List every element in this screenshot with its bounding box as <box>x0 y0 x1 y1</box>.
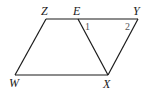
segment-zw <box>15 19 46 75</box>
segment-ex <box>78 19 108 75</box>
point-label-z: Z <box>41 4 48 18</box>
point-label-w: W <box>9 76 20 90</box>
angle-label-1: 1 <box>85 21 90 32</box>
diagram-canvas: Z E Y W X 1 2 <box>0 0 153 90</box>
angle-label-2: 2 <box>125 21 130 32</box>
geometry-diagram: Z E Y W X 1 2 <box>0 0 153 90</box>
segment-yx <box>108 19 138 75</box>
point-label-e: E <box>72 4 81 18</box>
point-label-x: X <box>102 77 111 90</box>
point-label-y: Y <box>133 4 141 18</box>
